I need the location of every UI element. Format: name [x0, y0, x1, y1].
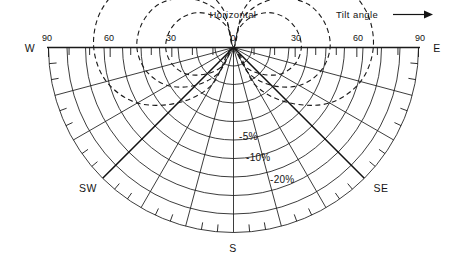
compass-label-east: E — [433, 42, 441, 54]
outer-arc-tick — [294, 214, 297, 221]
compass-label-southwest: SW — [79, 182, 97, 194]
contour-label-20pct: -20% — [270, 174, 295, 185]
outer-arc-tick — [201, 222, 202, 229]
contour-label-10pct: -10% — [246, 152, 271, 163]
outer-arc-tick — [394, 123, 401, 126]
outer-arc-tick — [249, 224, 250, 231]
grid-ray-azimuth--60 — [73, 48, 233, 141]
axis-tick-label-e60: 60 — [353, 33, 363, 43]
grid-rays — [49, 48, 419, 233]
outer-arc-tick — [66, 123, 73, 126]
horizontal-annotation: Horizontal — [210, 9, 257, 20]
grid-ray-azimuth--75 — [55, 48, 234, 96]
compass-label-south: S — [229, 242, 237, 254]
outer-arc-tick — [92, 162, 98, 167]
axis-tick-label-w90: 90 — [42, 33, 52, 43]
grid-ray-azimuth--15 — [186, 48, 234, 227]
outer-arc-tick — [115, 184, 120, 190]
outer-arc-tick — [379, 149, 385, 153]
contour-label-5pct: -5% — [239, 131, 258, 142]
right-arrow-icon — [393, 11, 433, 19]
grid-ray-azimuth-60 — [234, 48, 394, 141]
compass-label-west: W — [25, 42, 36, 54]
outer-arc-tick — [155, 208, 158, 215]
outer-arc-tick — [408, 78, 415, 79]
outer-arc-tick — [370, 162, 376, 167]
outer-arc-tick — [127, 193, 131, 199]
outer-arc-tick — [410, 63, 417, 64]
outer-arc-tick — [170, 214, 173, 221]
axis-tick-label-e30: 30 — [291, 33, 301, 43]
compass-label-southeast: SE — [373, 182, 388, 194]
outer-arc-tick — [264, 222, 265, 229]
outer-arc-tick — [309, 208, 312, 215]
grid-ray-azimuth--45 — [103, 48, 234, 179]
outer-arc-tick — [82, 149, 88, 153]
outer-arc-tick — [400, 108, 407, 111]
axis-tick-label-zero: 0 — [230, 33, 235, 43]
outer-arc-tick — [348, 184, 353, 190]
outer-arc-tick — [217, 224, 218, 231]
polar-tilt-azimuth-chart: 90 60 30 0 30 60 90 W E SW SE S Horizont… — [0, 0, 464, 265]
axis-tick-label-w30: 30 — [166, 33, 176, 43]
axis-tick-label-w60: 60 — [104, 33, 114, 43]
outer-arc-tick — [335, 193, 339, 199]
tilt-angle-annotation: Tilt angle — [336, 9, 378, 20]
outer-arc-tick — [49, 63, 56, 64]
chart-canvas: 90 60 30 0 30 60 90 W E SW SE S Horizont… — [0, 0, 464, 265]
axis-tick-label-e90: 90 — [415, 33, 425, 43]
grid-ray-azimuth-75 — [234, 48, 413, 96]
outer-arc-tick — [51, 78, 58, 79]
outer-arc-tick — [60, 108, 67, 111]
